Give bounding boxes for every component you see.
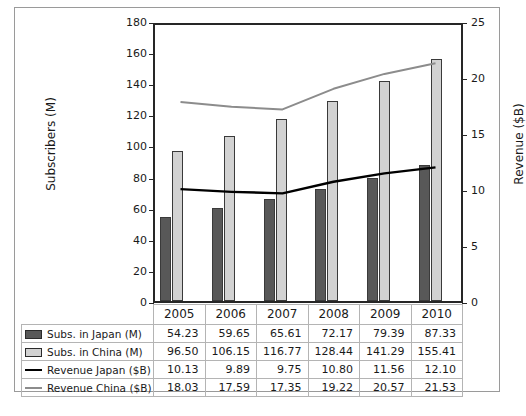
table-cell-2005: 54.23 xyxy=(154,325,206,343)
y-right-tick-15: 15 xyxy=(471,129,499,140)
table-col-header-2008: 2008 xyxy=(308,305,360,325)
table-cell-2009: 141.29 xyxy=(360,343,412,361)
legend-label: Revenue Japan ($B) xyxy=(47,364,151,376)
table-row: Revenue Japan ($B)10.139.899.7510.8011.5… xyxy=(22,361,463,379)
bar-china-2007 xyxy=(276,119,287,301)
legend-label: Subs. in Japan (M) xyxy=(47,328,142,340)
table-cell-2006: 9.89 xyxy=(205,361,257,379)
table-cell-2006: 59.65 xyxy=(205,325,257,343)
figure-frame: Subscribers (M) Revenue ($B) 02040608010… xyxy=(14,7,500,392)
table-cell-2010: 21.53 xyxy=(411,379,463,397)
table-cell-2005: 10.13 xyxy=(154,361,206,379)
revenue-china-line xyxy=(180,63,435,109)
y-right-tick-25: 25 xyxy=(471,17,499,28)
bar-china-2006 xyxy=(224,136,235,301)
table-cell-2010: 12.10 xyxy=(411,361,463,379)
y-left-tick-160: 160 xyxy=(111,48,147,59)
table-cell-2006: 106.15 xyxy=(205,343,257,361)
y-right-tick-0: 0 xyxy=(471,297,499,308)
y-left-tick-20: 20 xyxy=(111,266,147,277)
table-cell-2008: 128.44 xyxy=(308,343,360,361)
table-col-header-2010: 2010 xyxy=(411,305,463,325)
table-col-header-2005: 2005 xyxy=(154,305,206,325)
bar-japan-2009 xyxy=(367,178,378,301)
table-cell-2007: 65.61 xyxy=(257,325,309,343)
plot-area xyxy=(153,23,463,303)
data-table-body: Subs. in Japan (M)54.2359.6565.6172.1779… xyxy=(22,325,463,397)
bar-japan-2010 xyxy=(419,165,430,301)
table-cell-2007: 9.75 xyxy=(257,361,309,379)
bar-japan-2005 xyxy=(160,217,171,301)
y-left-tick-140: 140 xyxy=(111,79,147,90)
table-col-header-2009: 2009 xyxy=(360,305,412,325)
bar-china-2005 xyxy=(172,151,183,301)
y-left-tick-180: 180 xyxy=(111,17,147,28)
table-row: Subs. in China (M)96.50106.15116.77128.4… xyxy=(22,343,463,361)
revenue-japan-line xyxy=(180,167,435,193)
table-cell-2007: 116.77 xyxy=(257,343,309,361)
black-line-swatch-icon xyxy=(25,369,42,371)
line-series-layer xyxy=(155,25,461,301)
bar-japan-2007 xyxy=(264,199,275,301)
y-right-tick-10: 10 xyxy=(471,185,499,196)
y-right-tick-5: 5 xyxy=(471,241,499,252)
legend-cell-0: Subs. in Japan (M) xyxy=(22,325,154,343)
table-row: Subs. in Japan (M)54.2359.6565.6172.1779… xyxy=(22,325,463,343)
table-cell-2005: 96.50 xyxy=(154,343,206,361)
y-left-tick-120: 120 xyxy=(111,110,147,121)
y-left-tick-40: 40 xyxy=(111,235,147,246)
filled-light-swatch-icon xyxy=(25,348,42,357)
table-cell-2007: 17.35 xyxy=(257,379,309,397)
table-cell-2009: 79.39 xyxy=(360,325,412,343)
legend-cell-1: Subs. in China (M) xyxy=(22,343,154,361)
table-cell-2010: 87.33 xyxy=(411,325,463,343)
y-right-tick-20: 20 xyxy=(471,73,499,84)
bar-china-2008 xyxy=(327,101,338,301)
y-axis-right-title: Revenue ($B) xyxy=(513,84,525,204)
table-row: Revenue China ($B)18.0317.5917.3519.2220… xyxy=(22,379,463,397)
y-left-tick-100: 100 xyxy=(111,141,147,152)
y-axis-left-title: Subscribers (M) xyxy=(45,84,57,204)
legend-label: Subs. in China (M) xyxy=(47,346,143,358)
table-cell-2008: 72.17 xyxy=(308,325,360,343)
table-col-header-2007: 2007 xyxy=(257,305,309,325)
bar-china-2010 xyxy=(431,59,442,301)
legend-label: Revenue China ($B) xyxy=(47,382,151,394)
table-cell-2006: 17.59 xyxy=(205,379,257,397)
legend-cell-2: Revenue Japan ($B) xyxy=(22,361,154,379)
legend-cell-3: Revenue China ($B) xyxy=(22,379,154,397)
bar-china-2009 xyxy=(379,81,390,301)
y-left-tick-60: 60 xyxy=(111,204,147,215)
data-table-head: 200520062007200820092010 xyxy=(22,305,463,325)
table-cell-2008: 10.80 xyxy=(308,361,360,379)
y-left-tick-80: 80 xyxy=(111,173,147,184)
table-cell-2008: 19.22 xyxy=(308,379,360,397)
table-header-row: 200520062007200820092010 xyxy=(22,305,463,325)
bar-japan-2008 xyxy=(315,189,326,301)
legend-header-blank xyxy=(22,305,154,325)
bar-japan-2006 xyxy=(212,208,223,301)
gray-line-swatch-icon xyxy=(25,387,42,389)
table-cell-2010: 155.41 xyxy=(411,343,463,361)
data-table: 200520062007200820092010 Subs. in Japan … xyxy=(21,304,463,397)
table-cell-2009: 11.56 xyxy=(360,361,412,379)
table-cell-2009: 20.57 xyxy=(360,379,412,397)
table-col-header-2006: 2006 xyxy=(205,305,257,325)
table-cell-2005: 18.03 xyxy=(154,379,206,397)
filled-dark-swatch-icon xyxy=(25,330,42,339)
